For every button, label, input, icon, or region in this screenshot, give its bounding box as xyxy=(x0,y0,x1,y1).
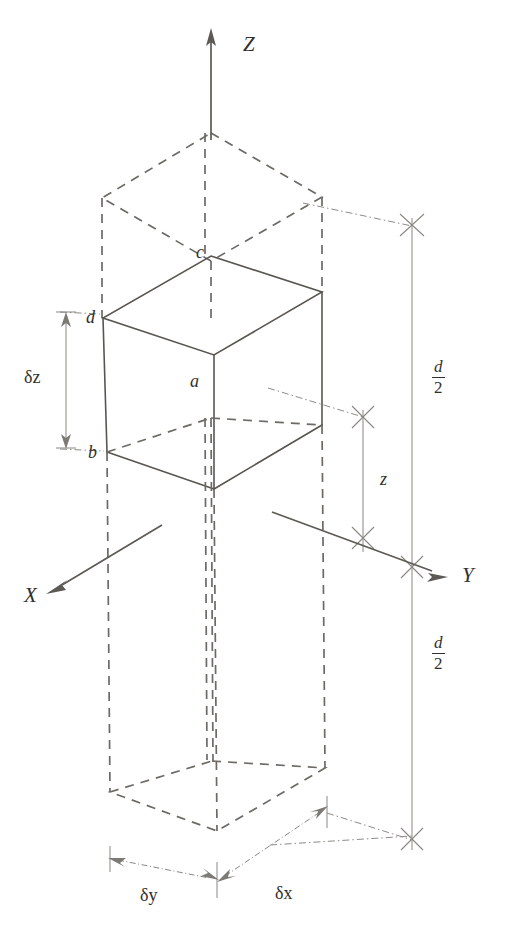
x-axis xyxy=(46,525,162,594)
z-dimension-group xyxy=(268,388,374,552)
x-axis-line xyxy=(62,525,162,585)
dimension-label-z: z xyxy=(380,470,387,488)
delta-y-dimension-shaft xyxy=(118,860,209,878)
z-axis xyxy=(206,28,216,140)
fraction-numerator-upper: d xyxy=(432,358,445,378)
dimension-label-delta-y: δy xyxy=(140,886,157,904)
lower-dashed-prism xyxy=(107,418,325,831)
lower-prism-left-edge xyxy=(107,452,110,792)
delta-x-dimension-shaft xyxy=(225,812,320,876)
y-axis-line xyxy=(272,512,432,571)
depth-leader-bottom xyxy=(327,813,412,840)
vertex-label-d: d xyxy=(86,308,95,326)
diagram-canvas xyxy=(0,0,512,930)
axis-label-x: X xyxy=(24,585,37,606)
axis-label-z: Z xyxy=(243,34,255,55)
lower-prism-front-edge xyxy=(214,489,217,831)
delta-y-dimension-group xyxy=(108,846,219,898)
control-volume-cube xyxy=(103,256,322,489)
dimension-label-delta-x: δx xyxy=(275,884,292,902)
lower-prism-right-edge xyxy=(322,425,325,768)
axis-label-y: Y xyxy=(462,565,474,586)
fraction-denominator-lower: 2 xyxy=(432,654,445,673)
cube-bottom-right-edge xyxy=(214,425,322,489)
upper-dashed-prism xyxy=(102,133,322,322)
cube-hidden-back-left-edge xyxy=(107,418,211,452)
x-axis-arrowhead xyxy=(46,580,67,594)
depth-leader-top xyxy=(303,203,412,226)
delta-y-arrowhead-right xyxy=(201,868,219,880)
fraction-denominator-upper: 2 xyxy=(432,378,445,397)
fraction-label-half-depth-upper: d 2 xyxy=(432,358,445,397)
delta-y-arrowhead-left xyxy=(108,858,126,867)
fraction-label-half-depth-lower: d 2 xyxy=(432,634,445,673)
delta-x-arrowhead-right xyxy=(310,806,328,819)
y-axis xyxy=(272,512,448,582)
lower-prism-back-edge xyxy=(205,418,207,760)
cube-bottom-left-edge xyxy=(107,452,214,489)
figure-root: Z Y X a b c d δz δy δx z d 2 d 2 xyxy=(0,0,512,930)
delta-x-leader xyxy=(270,836,412,845)
cube-hidden-back-right-edge xyxy=(211,418,322,425)
z-leader xyxy=(268,388,363,417)
dimension-label-delta-z: δz xyxy=(24,368,40,386)
delta-x-arrowhead-left xyxy=(217,869,236,882)
fraction-numerator-lower: d xyxy=(432,634,445,654)
upper-prism-top-face xyxy=(102,133,322,261)
delta-x-dimension-group xyxy=(217,796,412,882)
lower-prism-axis-edge xyxy=(211,418,213,762)
cube-top-face xyxy=(103,256,322,355)
y-axis-arrowhead xyxy=(427,573,448,582)
delta-z-dimension-group xyxy=(56,312,104,451)
cube-left-vertical-edge xyxy=(103,318,107,452)
vertex-label-a: a xyxy=(190,372,199,390)
delta-z-leader-bottom xyxy=(60,449,104,451)
vertex-label-b: b xyxy=(88,443,97,461)
vertex-label-c: c xyxy=(196,243,204,261)
